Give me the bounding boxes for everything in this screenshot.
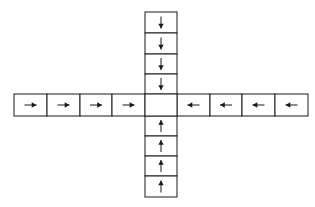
center-cell — [145, 94, 177, 116]
cross-grid-diagram — [0, 0, 315, 207]
